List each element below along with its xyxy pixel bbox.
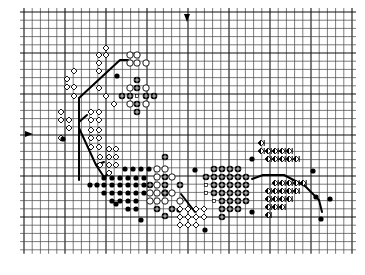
open-diamond-icon	[201, 214, 207, 220]
filled-dot-icon	[318, 216, 323, 221]
open-diamond-icon	[71, 68, 77, 74]
crossed-circle-icon	[227, 190, 234, 197]
cross-stitch-chart	[0, 0, 365, 275]
open-diamond-icon	[177, 214, 183, 220]
crossed-circle-icon	[235, 182, 242, 189]
open-circle-icon	[127, 101, 133, 107]
filled-dot-icon	[133, 175, 138, 180]
open-circle-icon	[154, 182, 160, 188]
open-circle-icon	[154, 198, 160, 204]
open-diamond-icon	[88, 135, 94, 141]
open-diamond-icon	[96, 144, 102, 150]
open-diamond-icon	[106, 154, 112, 160]
half-diamond-icon	[286, 148, 292, 154]
filled-dot-icon	[117, 175, 122, 180]
crossed-circle-icon	[203, 174, 210, 181]
open-diamond-icon	[193, 222, 199, 228]
filled-dot-icon	[101, 182, 106, 187]
crossed-circle-icon	[211, 166, 218, 173]
half-diamond-icon	[272, 156, 278, 162]
open-diamond-icon	[201, 206, 207, 212]
half-diamond-icon	[279, 196, 285, 202]
open-diamond-icon	[177, 222, 183, 228]
half-diamond-icon	[272, 188, 278, 194]
crossed-circle-icon	[227, 166, 234, 173]
small-square-icon	[205, 184, 208, 187]
crossed-circle-icon	[162, 190, 169, 197]
open-circle-icon	[154, 166, 160, 172]
crossed-circle-icon	[243, 198, 250, 205]
half-diamond-icon	[286, 156, 292, 162]
half-diamond-icon	[286, 188, 292, 194]
filled-dot-icon	[125, 198, 130, 203]
half-diamond-icon	[286, 180, 292, 186]
filled-dot-icon	[130, 166, 135, 171]
open-diamond-icon	[96, 135, 102, 141]
filled-dot-icon	[114, 73, 119, 78]
open-diamond-icon	[88, 117, 94, 123]
filled-dot-icon	[117, 182, 122, 187]
open-diamond-icon	[66, 117, 72, 123]
open-diamond-icon	[88, 109, 94, 115]
crossed-circle-icon	[235, 166, 242, 173]
half-diamond-icon	[279, 156, 285, 162]
filled-dot-icon	[310, 168, 315, 173]
open-circle-icon	[169, 190, 175, 196]
filled-dot-icon	[133, 182, 138, 187]
half-diamond-icon	[279, 148, 285, 154]
crossed-circle-icon	[227, 198, 234, 205]
half-diamond-icon	[293, 188, 299, 194]
half-diamond-icon	[272, 148, 278, 154]
filled-dot-icon	[146, 166, 151, 171]
crossed-circle-icon	[235, 206, 242, 213]
crossed-circle-icon	[243, 182, 250, 189]
crossed-circle-icon	[162, 154, 169, 161]
open-diamond-icon	[106, 162, 112, 168]
open-diamond-icon	[88, 127, 94, 133]
half-diamond-icon	[258, 140, 264, 146]
crossed-circle-icon	[219, 190, 226, 197]
crossed-circle-icon	[227, 174, 234, 181]
filled-dot-icon	[133, 198, 138, 203]
crossed-circle-icon	[162, 213, 169, 220]
crossed-circle-icon	[235, 198, 242, 205]
crossed-circle-icon	[219, 206, 226, 213]
crossed-circle-icon	[211, 174, 218, 181]
open-circle-icon	[127, 52, 133, 58]
crossed-circle-icon	[134, 77, 141, 84]
filled-dot-icon	[313, 194, 318, 199]
crossed-circle-icon	[219, 174, 226, 181]
open-diamond-icon	[66, 125, 72, 131]
small-square-icon	[213, 200, 216, 203]
crossed-circle-icon	[227, 182, 234, 189]
filled-dot-icon	[125, 175, 130, 180]
open-circle-icon	[143, 101, 149, 107]
open-diamond-icon	[96, 117, 102, 123]
crossed-circle-icon	[177, 182, 184, 189]
crossed-circle-icon	[235, 174, 242, 181]
open-diamond-icon	[58, 109, 64, 115]
filled-dot-icon	[87, 182, 92, 187]
crossed-circle-icon	[134, 101, 141, 108]
filled-dot-icon	[125, 190, 130, 195]
open-circle-icon	[147, 198, 153, 204]
filled-dot-icon	[117, 190, 122, 195]
crossed-circle-icon	[169, 206, 176, 213]
crossed-circle-icon	[119, 93, 126, 100]
crossed-circle-icon	[243, 174, 250, 181]
open-diamond-icon	[96, 68, 102, 74]
open-circle-icon	[162, 166, 168, 172]
open-diamond-icon	[96, 127, 102, 133]
crossed-circle-icon	[143, 93, 150, 100]
crossed-circle-icon	[127, 93, 134, 100]
filled-dot-icon	[202, 227, 207, 232]
crossed-circle-icon	[227, 206, 234, 213]
half-diamond-icon	[258, 148, 264, 154]
small-square-icon	[136, 95, 139, 98]
filled-dot-icon	[249, 209, 254, 214]
open-circle-icon	[143, 60, 149, 66]
crossed-circle-icon	[211, 190, 218, 197]
backstitch-line	[79, 60, 128, 98]
crossed-circle-icon	[134, 109, 141, 116]
crossed-circle-icon	[154, 206, 161, 213]
